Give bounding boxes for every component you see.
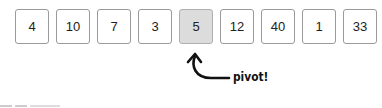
- array-cell: 4: [15, 9, 49, 44]
- array-row: 4 10 7 3 5 12 40 1 33: [15, 9, 377, 44]
- array-cell: 7: [97, 9, 131, 44]
- pivot-cell: 5: [179, 9, 213, 44]
- array-cell: 33: [343, 9, 377, 44]
- array-cell: 10: [56, 9, 90, 44]
- pivot-label: pivot!: [233, 69, 268, 84]
- clipped-text-fragment: [0, 103, 60, 108]
- array-cell: 40: [261, 9, 295, 44]
- array-cell: 3: [138, 9, 172, 44]
- array-cell: 1: [302, 9, 336, 44]
- array-cell: 12: [220, 9, 254, 44]
- curved-arrow-icon: [185, 50, 235, 85]
